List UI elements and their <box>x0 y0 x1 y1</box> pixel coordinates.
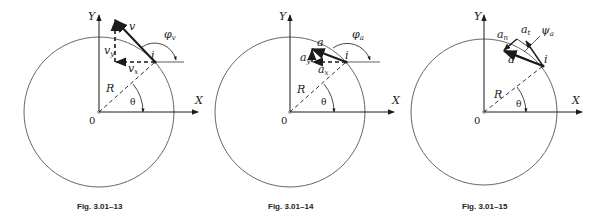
origin-label: 0 <box>474 115 480 126</box>
x-axis-label: X <box>571 94 581 107</box>
v-label: v <box>129 20 136 33</box>
origin-label: 0 <box>281 115 287 126</box>
figure-3-01-15: Y X 0 R θ i a an at ψa Fig. 3.01–15 <box>411 10 582 211</box>
figure-caption: Fig. 3.01–13 <box>77 202 123 211</box>
vy-label: vy <box>104 44 115 58</box>
acceleration-vector <box>312 49 346 62</box>
origin-label: 0 <box>89 115 95 126</box>
y-axis-label: Y <box>88 10 97 23</box>
figure-3-01-14: Y X X 0 R θ i a ay ax φa Fig. 3.01–14 <box>194 10 401 211</box>
point-i-label: i <box>151 49 155 62</box>
y-axis-label: Y <box>279 10 288 23</box>
point-i-label: i <box>544 53 548 66</box>
phi-arc <box>333 43 370 60</box>
vx-label: vx <box>128 62 138 76</box>
figure-3-01-13: Y 0 R θ i v vy vx φv Fig. 3.01–13 <box>24 10 198 211</box>
at-label: at <box>521 23 531 37</box>
radius-label: R <box>105 82 114 95</box>
ay-label: ay <box>300 51 312 65</box>
point-i-label: i <box>345 49 349 62</box>
radius-label: R <box>493 88 502 101</box>
ax-label: ax <box>318 63 329 77</box>
a-label: a <box>508 53 515 66</box>
an-label: an <box>497 28 509 42</box>
a-label: a <box>317 36 324 49</box>
theta-label: θ <box>130 97 135 107</box>
x-axis-label-fig13: X <box>194 94 204 107</box>
y-axis-label: Y <box>474 10 483 23</box>
diagram-canvas: Y 0 R θ i v vy vx φv Fig. 3.01–13 Y X X … <box>0 0 608 216</box>
phi-arc <box>142 43 176 60</box>
radius-line <box>484 66 543 112</box>
theta-label: θ <box>516 99 521 109</box>
psi-a-label: ψa <box>541 24 554 38</box>
theta-label: θ <box>321 97 326 107</box>
figure-caption: Fig. 3.01–15 <box>462 202 508 211</box>
radius-label: R <box>296 83 305 96</box>
phi-v-label: φv <box>164 28 176 42</box>
phi-a-label: φa <box>352 28 364 42</box>
figure-caption: Fig. 3.01–14 <box>268 202 314 211</box>
x-axis-label: X <box>391 94 401 107</box>
